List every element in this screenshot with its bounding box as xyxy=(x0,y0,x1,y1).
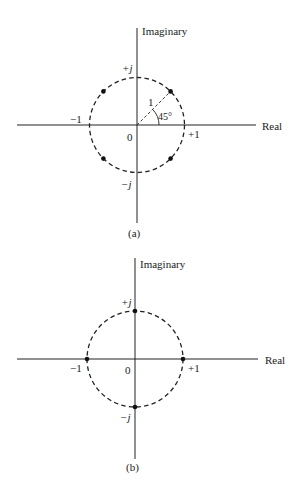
point-45deg xyxy=(168,89,173,94)
origin-label: 0 xyxy=(127,131,133,143)
real-axis-label: Real xyxy=(265,354,285,366)
point-90deg xyxy=(133,309,138,314)
point-180deg xyxy=(85,357,90,362)
imaginary-axis-label: Imaginary xyxy=(140,258,186,270)
plus-j-label: +j xyxy=(121,296,131,308)
plus-one-label: +1 xyxy=(188,362,200,374)
diagram-b: Imaginary Real +j −j −1 +1 0 (b) xyxy=(17,258,285,474)
origin-label: 0 xyxy=(125,364,131,376)
imaginary-axis-label: Imaginary xyxy=(142,25,188,37)
minus-j-label: −j xyxy=(120,411,130,423)
caption-b: (b) xyxy=(126,461,139,474)
plus-one-label: +1 xyxy=(188,128,200,140)
complex-plane-figure: Imaginary Real +j −j −1 +1 0 1 45° (a) I… xyxy=(0,0,301,499)
point-225deg xyxy=(101,156,106,161)
point-270deg xyxy=(133,405,138,410)
minus-j-label: −j xyxy=(121,178,131,190)
minus-one-label: −1 xyxy=(70,362,82,374)
minus-one-label: −1 xyxy=(70,113,82,125)
point-135deg xyxy=(101,89,106,94)
caption-a: (a) xyxy=(128,227,141,240)
diagram-a: Imaginary Real +j −j −1 +1 0 1 45° (a) xyxy=(17,25,282,240)
real-axis-label: Real xyxy=(262,120,282,132)
plus-j-label: +j xyxy=(122,62,132,74)
angle-label: 45° xyxy=(158,111,172,122)
point-0deg xyxy=(181,357,186,362)
radius-label: 1 xyxy=(148,96,154,108)
point-315deg xyxy=(168,156,173,161)
